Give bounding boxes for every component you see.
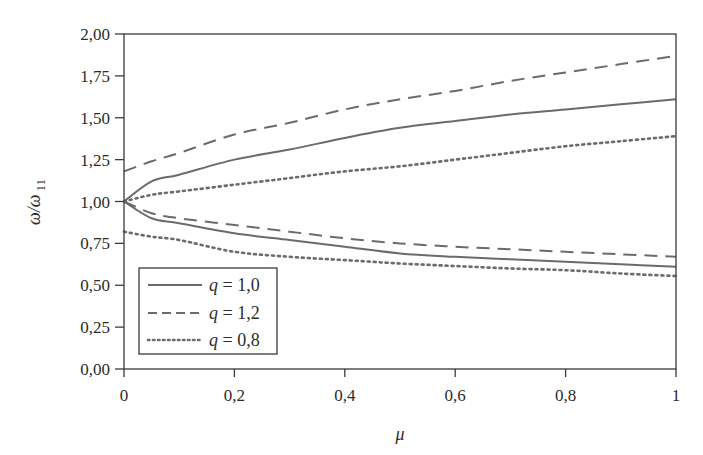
y-axis-label-main: ω/ω xyxy=(24,195,44,225)
y-axis: 0,000,250,500,751,001,251,501,752,00 xyxy=(80,25,124,379)
series-line-solid xyxy=(124,202,676,267)
legend: q = 1,0q = 1,2q = 0,8 xyxy=(139,268,277,354)
chart: 0,000,250,500,751,001,251,501,752,00 00,… xyxy=(0,0,703,455)
y-axis-label-subscript: 11 xyxy=(33,179,48,192)
y-tick-label: 1,75 xyxy=(80,67,110,86)
y-tick-label: 1,50 xyxy=(80,109,110,128)
series-line-dotted xyxy=(124,136,676,201)
y-tick-label: 2,00 xyxy=(80,25,110,44)
x-axis: 00,20,40,60,81 xyxy=(120,369,681,405)
x-tick-label: 0,2 xyxy=(224,386,245,405)
chart-canvas: 0,000,250,500,751,001,251,501,752,00 00,… xyxy=(0,0,703,455)
legend-label: q = 1,2 xyxy=(209,303,260,323)
svg-text:ω/ω11: ω/ω11 xyxy=(24,179,48,225)
x-tick-label: 0 xyxy=(120,386,129,405)
y-tick-label: 0,75 xyxy=(80,234,110,253)
y-tick-label: 0,50 xyxy=(80,276,110,295)
y-tick-label: 1,00 xyxy=(80,193,110,212)
y-tick-label: 0,25 xyxy=(80,318,110,337)
x-tick-label: 1 xyxy=(672,386,681,405)
plot-area xyxy=(124,56,676,276)
series-line-solid xyxy=(124,99,676,201)
legend-label: q = 1,0 xyxy=(209,275,260,295)
x-tick-label: 0,8 xyxy=(555,386,576,405)
x-axis-label: μ xyxy=(394,424,404,444)
legend-label: q = 0,8 xyxy=(209,330,260,350)
series-line-dashed xyxy=(124,56,676,172)
x-tick-label: 0,4 xyxy=(334,386,356,405)
y-tick-label: 0,00 xyxy=(80,360,110,379)
y-axis-label: ω/ω11 xyxy=(24,179,48,225)
x-tick-label: 0,6 xyxy=(445,386,466,405)
y-tick-label: 1,25 xyxy=(80,151,110,170)
